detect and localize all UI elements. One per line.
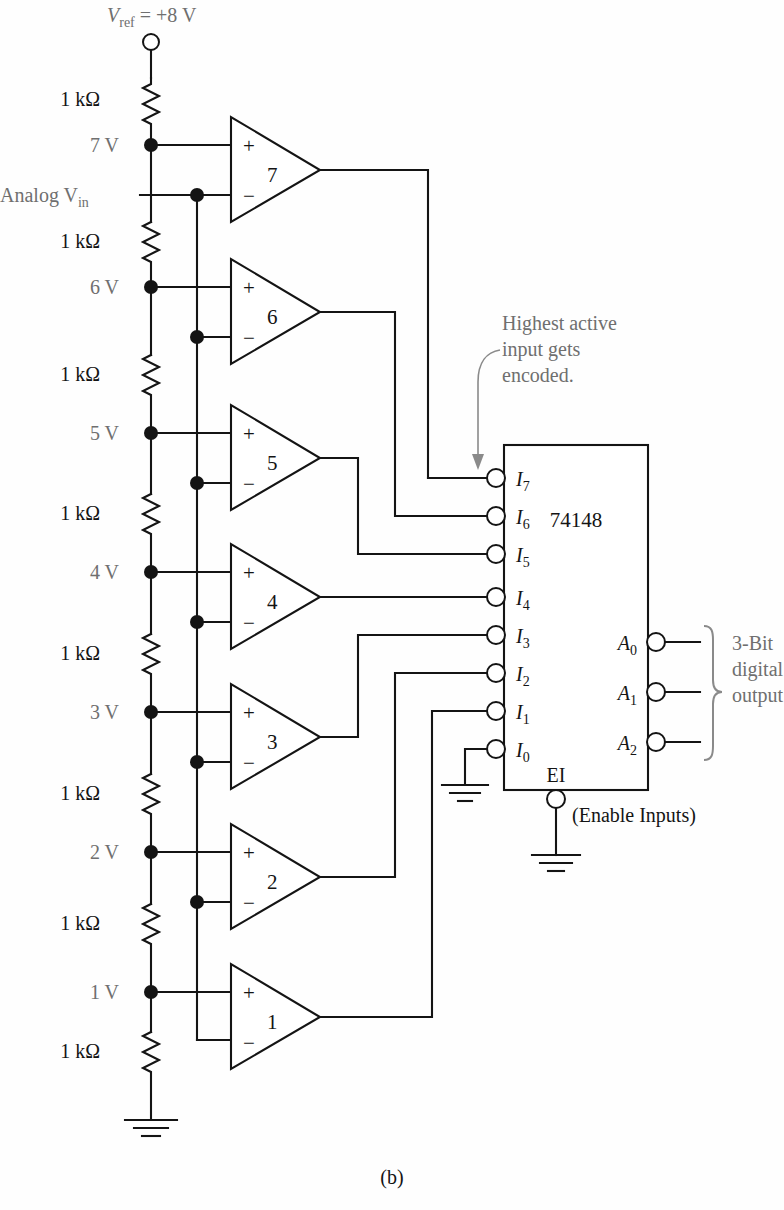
vin-tap-dot bbox=[190, 615, 204, 629]
node-label: 6 V bbox=[90, 276, 120, 298]
resistor-symbol bbox=[143, 904, 159, 992]
resistor-symbol bbox=[143, 634, 159, 712]
resistor-label: 1 kΩ bbox=[60, 502, 100, 524]
chip-input-pin[interactable] bbox=[487, 507, 505, 525]
ladder-ground-symbol bbox=[125, 1120, 177, 1136]
output-brace bbox=[704, 626, 722, 760]
resistor-label: 1 kΩ bbox=[60, 230, 100, 252]
resistor-symbol bbox=[143, 222, 159, 287]
enable-input-pin[interactable] bbox=[547, 790, 565, 808]
vin-tap-dot bbox=[190, 895, 204, 909]
comparator-number: 1 bbox=[267, 1010, 278, 1034]
figure-canvas: Vref = +8 V 1 kΩ 1 kΩ 1 kΩ 1 kΩ 1 kΩ 1 k… bbox=[0, 0, 784, 1210]
annotation-arrow-line bbox=[478, 350, 500, 458]
comparator-minus-sign: − bbox=[243, 891, 255, 915]
figure-caption: (b) bbox=[380, 1166, 403, 1189]
node-label: 7 V bbox=[90, 134, 120, 156]
comparator-number: 3 bbox=[267, 730, 278, 754]
resistor-symbol bbox=[143, 774, 159, 852]
comparator-number: 6 bbox=[267, 305, 278, 329]
comparator-output-wire bbox=[320, 170, 428, 478]
comparator-plus-sign: + bbox=[243, 841, 255, 865]
resistor-label: 1 kΩ bbox=[60, 642, 100, 664]
vin-tap-dot bbox=[190, 188, 204, 202]
comparator-plus-sign: + bbox=[243, 981, 255, 1005]
resistor-label: 1 kΩ bbox=[60, 363, 100, 385]
resistor-symbol bbox=[143, 1032, 159, 1120]
comparator-plus-sign: + bbox=[243, 134, 255, 158]
ladder-nodes: 7 V 6 V 5 V 4 V 3 V 2 V 1 V bbox=[90, 134, 158, 1003]
node-label: 5 V bbox=[90, 422, 120, 444]
resistor-symbol bbox=[143, 78, 159, 145]
comparator-minus-sign: − bbox=[243, 1031, 255, 1055]
chip-input-pin[interactable] bbox=[487, 588, 505, 606]
node-label: 1 V bbox=[90, 981, 120, 1003]
comparator-minus-sign: − bbox=[243, 184, 255, 208]
comparator-output-wire bbox=[320, 673, 489, 877]
chip-output-pin[interactable] bbox=[647, 733, 665, 751]
vref-label: Vref = +8 V bbox=[107, 4, 197, 30]
output-brace-group: 3-Bit digital output bbox=[704, 626, 784, 760]
comparator-minus-sign: − bbox=[243, 472, 255, 496]
comparator-minus-sign: − bbox=[243, 611, 255, 635]
node-label: 3 V bbox=[90, 701, 120, 723]
comparator-number: 5 bbox=[267, 451, 278, 475]
resistor-ladder: 1 kΩ 1 kΩ 1 kΩ 1 kΩ 1 kΩ 1 kΩ 1 kΩ 1 kΩ bbox=[60, 78, 177, 1136]
vin-tap-dot bbox=[190, 330, 204, 344]
vref-terminal: Vref = +8 V bbox=[107, 4, 197, 78]
annotation-line-1: Highest active bbox=[502, 312, 617, 335]
comparator-number: 2 bbox=[267, 870, 278, 894]
resistor-label: 1 kΩ bbox=[60, 782, 100, 804]
annotation-line-3: encoded. bbox=[502, 364, 574, 386]
i0-ground-connection bbox=[442, 749, 488, 801]
resistor-label: 1 kΩ bbox=[60, 912, 100, 934]
chip-input-pin[interactable] bbox=[487, 702, 505, 720]
comparator-plus-sign: + bbox=[243, 422, 255, 446]
annotation-line-2: input gets bbox=[502, 338, 581, 361]
comparator-number: 7 bbox=[267, 163, 278, 187]
i0-ground-symbol bbox=[442, 785, 488, 801]
comparator-plus-sign: + bbox=[243, 276, 255, 300]
chip-input-pin[interactable] bbox=[487, 740, 505, 758]
output-note-line-2: digital bbox=[732, 658, 784, 681]
enable-input-label: EI bbox=[547, 764, 566, 786]
analog-vin-label: Analog Vin bbox=[0, 184, 89, 210]
comparator-output-wire bbox=[320, 312, 489, 516]
chip-output-pin[interactable] bbox=[647, 633, 665, 651]
chip-input-pin[interactable] bbox=[487, 626, 505, 644]
encoder-chip-74148[interactable]: 74148 I7 I6 I5 I4 I3 I2 I1 I0 A0 A1 A2 E… bbox=[487, 445, 700, 871]
comparator-output-wire bbox=[320, 635, 489, 737]
node-label: 4 V bbox=[90, 561, 120, 583]
comparator-number: 4 bbox=[267, 590, 278, 614]
vref-terminal-circle bbox=[143, 34, 159, 50]
resistor-label: 1 kΩ bbox=[60, 1040, 100, 1062]
resistor-label: 1 kΩ bbox=[60, 88, 100, 110]
comparator-plus-sign: + bbox=[243, 701, 255, 725]
comparator-minus-sign: − bbox=[243, 326, 255, 350]
analog-vin-bus: Analog Vin bbox=[0, 184, 231, 1040]
annotation-arrow-head bbox=[472, 454, 484, 470]
comparator-minus-sign: − bbox=[243, 751, 255, 775]
output-note-line-3: output bbox=[732, 684, 784, 707]
chip-output-pin[interactable] bbox=[647, 683, 665, 701]
node-label: 2 V bbox=[90, 841, 120, 863]
chip-input-pin[interactable] bbox=[487, 664, 505, 682]
chip-input-pin[interactable] bbox=[487, 545, 505, 563]
enable-ground-symbol bbox=[532, 855, 580, 871]
vin-tap-dot bbox=[190, 476, 204, 490]
comparator-output-wire bbox=[320, 711, 489, 1017]
enable-input-note: (Enable Inputs) bbox=[572, 804, 696, 827]
vin-tap-dot bbox=[190, 755, 204, 769]
chip-part-number: 74148 bbox=[550, 508, 603, 532]
resistor-symbol bbox=[143, 494, 159, 572]
comparator-plus-sign: + bbox=[243, 561, 255, 585]
comparator-4[interactable]: + − 4 bbox=[151, 544, 489, 649]
i0-ground-wire bbox=[465, 749, 487, 785]
resistor-symbol bbox=[143, 355, 159, 433]
chip-input-pin[interactable] bbox=[487, 469, 505, 487]
comparator-output-wire bbox=[320, 458, 489, 554]
output-note-line-1: 3-Bit bbox=[732, 632, 774, 654]
